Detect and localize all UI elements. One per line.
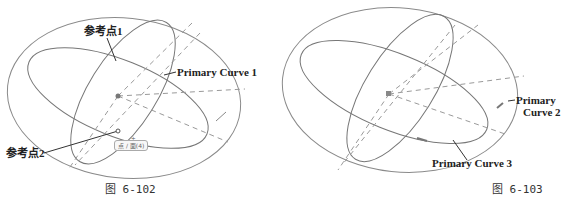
direction-arrow-icon bbox=[216, 112, 226, 121]
dashed-axis bbox=[389, 76, 524, 94]
leader-ref-point-1 bbox=[107, 38, 116, 61]
label-primary-curve-2-line2: Curve 2 bbox=[523, 106, 561, 118]
caption-figure-6-102: 图 6-102 bbox=[105, 180, 156, 196]
dashed-axis bbox=[338, 94, 389, 170]
dashed-axis bbox=[342, 25, 455, 165]
center-point-icon bbox=[116, 94, 121, 99]
caption-figure-6-103: 图 6-103 bbox=[492, 180, 543, 196]
outer-ellipse bbox=[0, 6, 249, 190]
point-tag: 点 / 面(4) bbox=[114, 140, 148, 151]
label-ref-point-2: 参考点2 bbox=[6, 147, 45, 159]
figure-6-102-drawing: + bbox=[0, 4, 249, 189]
center-point-icon bbox=[386, 91, 391, 96]
vertical-ellipse bbox=[51, 4, 196, 179]
ref-point-2-marker bbox=[116, 129, 120, 133]
leader-primary-curve-2 bbox=[508, 100, 515, 101]
horizontal-ellipse bbox=[287, 19, 501, 164]
direction-arrow-icon bbox=[497, 103, 503, 108]
label-ref-point-1: 参考点1 bbox=[84, 25, 123, 37]
leader-ref-point-2 bbox=[44, 131, 118, 153]
dashed-axis bbox=[118, 23, 192, 96]
label-primary-curve-3: Primary Curve 3 bbox=[432, 157, 512, 169]
label-primary-curve-2-line1: Primary bbox=[516, 94, 556, 106]
vertical-ellipse bbox=[327, 0, 474, 177]
label-primary-curve-1: Primary Curve 1 bbox=[177, 66, 257, 78]
dashed-axis bbox=[389, 94, 508, 135]
